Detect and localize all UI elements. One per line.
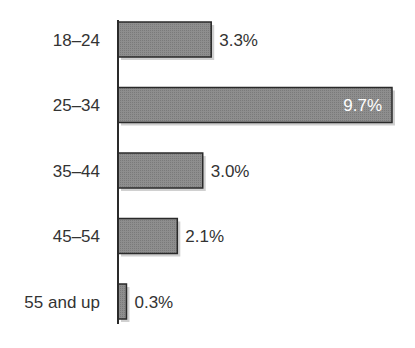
- value-label: 3.3%: [219, 31, 258, 50]
- category-label: 25–34: [53, 96, 100, 115]
- bar-4: [118, 284, 126, 319]
- value-label: 3.0%: [211, 162, 250, 181]
- bar-2: [118, 153, 203, 188]
- bar-chart: 18–243.3%25–349.7%35–443.0%45–542.1%55 a…: [0, 0, 415, 348]
- category-label: 35–44: [53, 162, 100, 181]
- category-label: 18–24: [53, 31, 100, 50]
- value-label: 0.3%: [134, 293, 173, 312]
- value-label: 9.7%: [343, 96, 382, 115]
- bar-3: [118, 219, 177, 254]
- category-label: 55 and up: [24, 293, 100, 312]
- category-label: 45–54: [53, 227, 100, 246]
- value-label: 2.1%: [185, 227, 224, 246]
- bar-0: [118, 22, 211, 57]
